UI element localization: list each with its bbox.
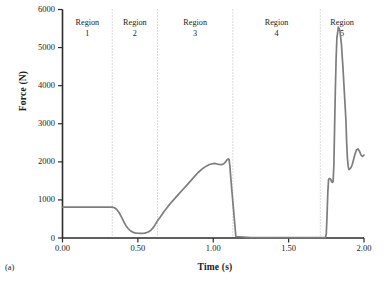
figure-panel: Force (N) Time (s) (a) 01000200030004000… (0, 0, 384, 287)
region-divider-group (112, 10, 320, 239)
chart-plot-area (0, 0, 384, 287)
force-time-curve (63, 27, 365, 238)
